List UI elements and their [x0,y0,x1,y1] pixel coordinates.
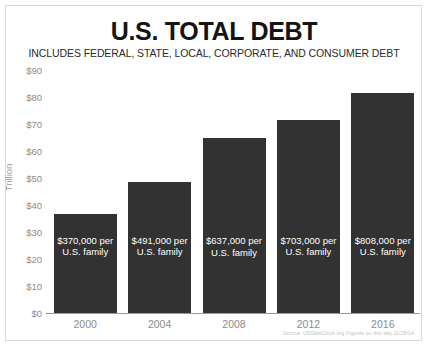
y-axis-tick-label: $20 [26,254,42,265]
chart-page: U.S. TOTAL DEBT INCLUDES FEDERAL, STATE,… [0,0,428,347]
y-axis-tick-label: $0 [31,308,42,319]
x-axis-tick-label: 2008 [193,318,276,330]
page-subtitle: INCLUDES FEDERAL, STATE, LOCAL, CORPORAT… [0,47,428,59]
bar: $370,000 per U.S. family [54,214,117,313]
bar-value-label: $370,000 per U.S. family [54,235,117,258]
y-axis-tick-label: $90 [26,65,42,76]
x-axis-tick-label: 2004 [118,318,201,330]
bar: $808,000 per U.S. family [351,93,414,313]
y-axis-ticks: $0$10$20$30$40$50$60$70$80$90 [0,70,42,314]
y-axis-tick-label: $30 [26,227,42,238]
y-axis-tick-label: $60 [26,146,42,157]
bar: $491,000 per U.S. family [128,182,191,313]
bar: $703,000 per U.S. family [277,120,340,313]
bar: $637,000 per U.S. family [203,138,266,314]
y-axis-tick-label: $40 [26,200,42,211]
source-note: Source: USDebtClock.org Figures on this … [283,330,414,336]
bar-value-label: $703,000 per U.S. family [277,235,340,258]
x-axis-tick-label: 2000 [44,318,127,330]
bar-value-label: $808,000 per U.S. family [351,235,414,258]
x-axis-tick-label: 2016 [341,318,424,330]
x-axis-tick-label: 2012 [267,318,350,330]
y-axis-tick-label: $50 [26,173,42,184]
bar-value-label: $637,000 per U.S. family [203,235,266,258]
y-axis-tick-label: $80 [26,92,42,103]
y-axis-tick-label: $70 [26,119,42,130]
page-title: U.S. TOTAL DEBT [0,17,428,46]
plot-area: $370,000 per U.S. family$491,000 per U.S… [46,70,418,314]
y-axis-tick-label: $10 [26,281,42,292]
bar-value-label: $491,000 per U.S. family [128,235,191,258]
